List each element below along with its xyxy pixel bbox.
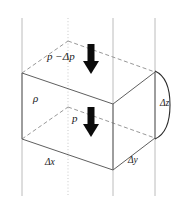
label-density-rho: ρ — [33, 93, 38, 104]
top-face-back-right-edge — [68, 41, 155, 72]
bottom-face-front-left-edge — [22, 139, 113, 170]
label-dimension-x: Δx — [45, 158, 55, 168]
figure-container: p −Δp ρ p Δx Δy Δz — [0, 0, 182, 209]
fluid-element-diagram — [0, 0, 182, 209]
down-arrow-icon-top — [83, 44, 99, 74]
label-dimension-z: Δz — [160, 99, 169, 109]
label-dimension-y: Δy — [128, 156, 138, 166]
down-arrow-icon-bottom — [83, 107, 99, 137]
label-pressure-top: p −Δp — [47, 51, 75, 62]
top-face-front-right-edge — [113, 72, 155, 104]
bottom-face-back-right-edge — [68, 107, 155, 138]
label-pressure-bottom: p — [72, 113, 78, 124]
bottom-face-back-left-edge — [22, 107, 68, 139]
